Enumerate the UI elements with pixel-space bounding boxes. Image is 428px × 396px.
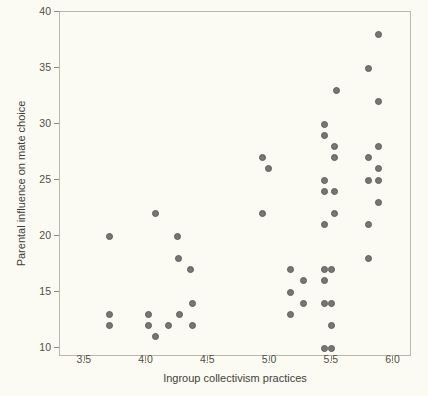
y-axis-tick-label: 25 [39, 173, 51, 185]
data-point [265, 165, 272, 172]
data-point [331, 143, 338, 150]
data-point [328, 322, 335, 329]
data-point [145, 311, 152, 318]
data-point [321, 266, 328, 273]
data-point [300, 277, 307, 284]
plot-area [59, 11, 411, 356]
data-point [375, 143, 382, 150]
data-points-layer [60, 12, 410, 355]
data-point [106, 233, 113, 240]
data-point [321, 177, 328, 184]
data-point [365, 177, 372, 184]
data-point [145, 322, 152, 329]
data-point [365, 154, 372, 161]
y-axis-tick-label: 10 [39, 341, 51, 353]
data-point [365, 65, 372, 72]
y-axis-tick-label: 30 [39, 117, 51, 129]
data-point [331, 210, 338, 217]
data-point [321, 300, 328, 307]
data-point [321, 221, 328, 228]
data-point [287, 289, 294, 296]
data-point [321, 277, 328, 284]
data-point [375, 98, 382, 105]
y-axis-tick [54, 347, 59, 348]
y-axis-tick [54, 235, 59, 236]
x-axis-tick-label: 5.0 [262, 353, 277, 365]
y-axis-tick [54, 179, 59, 180]
data-point [331, 188, 338, 195]
data-point [300, 300, 307, 307]
data-point [165, 322, 172, 329]
y-axis-tick [54, 291, 59, 292]
data-point [328, 345, 335, 352]
data-point [321, 121, 328, 128]
data-point [287, 311, 294, 318]
data-point [375, 177, 382, 184]
x-axis-tick-label: 6.0 [385, 353, 400, 365]
x-axis-tick-label: 3.5 [76, 353, 91, 365]
y-axis-tick-label: 20 [39, 229, 51, 241]
data-point [321, 132, 328, 139]
data-point [189, 322, 196, 329]
data-point [321, 188, 328, 195]
data-point [175, 255, 182, 262]
data-point [365, 255, 372, 262]
data-point [331, 154, 338, 161]
data-point [176, 311, 183, 318]
y-axis-tick-label: 35 [39, 61, 51, 73]
data-point [375, 199, 382, 206]
scatter-plot-figure: Ingroup collectivism practices Parental … [0, 0, 428, 396]
y-axis-tick [54, 123, 59, 124]
data-point [189, 300, 196, 307]
y-axis-label: Parental influence on mate choice [12, 11, 30, 356]
data-point [328, 300, 335, 307]
data-point [106, 311, 113, 318]
y-axis-tick [54, 11, 59, 12]
data-point [187, 266, 194, 273]
data-point [333, 87, 340, 94]
data-point [365, 221, 372, 228]
data-point [174, 233, 181, 240]
data-point [152, 210, 159, 217]
data-point [375, 31, 382, 38]
data-point [287, 266, 294, 273]
y-axis-tick-label: 40 [39, 5, 51, 17]
data-point [152, 333, 159, 340]
data-point [328, 266, 335, 273]
data-point [106, 322, 113, 329]
data-point [375, 165, 382, 172]
y-axis-tick-label: 15 [39, 285, 51, 297]
x-axis-label: Ingroup collectivism practices [59, 372, 411, 384]
y-axis-tick [54, 67, 59, 68]
data-point [321, 345, 328, 352]
x-axis-tick-label: 4.0 [138, 353, 153, 365]
x-axis-tick-label: 4.5 [200, 353, 215, 365]
x-axis-tick-label: 5.5 [323, 353, 338, 365]
data-point [259, 210, 266, 217]
data-point [259, 154, 266, 161]
